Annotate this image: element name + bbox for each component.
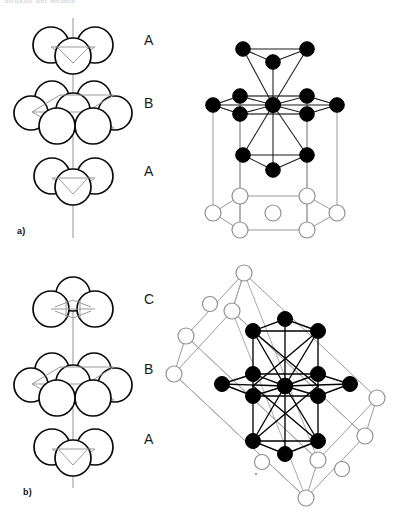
panel-b-graphics	[0, 256, 397, 518]
figure-close-packed-structures: Struktur der Metalle	[0, 0, 397, 518]
layer-label-a-top: A	[144, 32, 153, 48]
hcp-unit-cell	[205, 42, 345, 238]
layer-label-b-bottom: A	[144, 431, 153, 447]
panel-label-b: b)	[23, 487, 32, 497]
panel-label-a: a)	[17, 226, 25, 236]
filled-atoms-fcc	[215, 312, 358, 462]
layer-label-a-middle: B	[144, 95, 153, 111]
fcc-unit-cell	[166, 265, 385, 506]
layer-label-a-bottom: A	[144, 163, 153, 179]
panel-a-graphics	[0, 0, 397, 260]
layer-label-b-top: C	[144, 291, 154, 307]
layer-label-b-middle: B	[144, 361, 153, 377]
